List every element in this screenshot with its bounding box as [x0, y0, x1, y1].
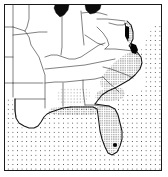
distribution-map-figure	[0, 0, 168, 177]
locality-dot-chesapeake-icon	[130, 43, 138, 54]
map-frame	[4, 4, 162, 171]
locality-dots-layer	[5, 5, 161, 170]
locality-dot-south-florida-icon	[113, 143, 117, 147]
locality-marker-delmarva-icon	[125, 26, 129, 40]
